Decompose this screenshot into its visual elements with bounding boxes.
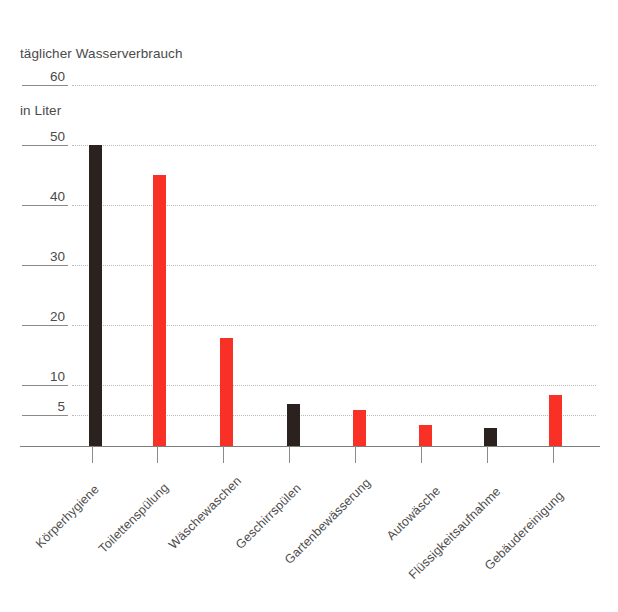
x-tick-5	[355, 446, 356, 463]
gridline-5	[72, 415, 596, 416]
y-tick-30: 30	[22, 249, 68, 266]
y-tick-rule-40	[22, 205, 68, 206]
y-tick-rule-60	[22, 85, 68, 86]
x-tick-4	[289, 446, 290, 463]
y-tick-50: 50	[22, 129, 68, 146]
gridline-20	[72, 325, 596, 326]
x-axis-label-autowaesche: Autowäsche	[384, 484, 443, 543]
y-tick-rule-20	[22, 325, 68, 326]
y-tick-60: 60	[22, 69, 68, 86]
x-axis-label-geschirrspuelen: Geschirrspülen	[233, 481, 304, 552]
x-tick-1	[92, 446, 93, 463]
x-tick-8	[553, 446, 554, 463]
gridline-10	[72, 385, 596, 386]
y-tick-rule-30	[22, 265, 68, 266]
x-tick-6	[421, 446, 422, 463]
y-tick-rule-50	[22, 145, 68, 146]
bar-toilettenspuelung	[153, 175, 166, 446]
bar-gebaeudereinigung	[549, 395, 562, 446]
y-tick-label-30: 30	[22, 249, 68, 264]
bar-autowaesche	[419, 425, 432, 446]
bar-waeschewaschen	[220, 338, 233, 446]
bar-fluessigkeitsaufnahme	[484, 428, 497, 446]
bar-koerperhygiene	[89, 145, 102, 446]
water-consumption-bar-chart: täglicher Wasserverbrauch in Liter 60 50…	[0, 0, 618, 612]
y-tick-rule-5	[22, 415, 68, 416]
x-tick-2	[157, 446, 158, 463]
gridline-60	[72, 85, 596, 86]
gridline-30	[72, 265, 596, 266]
x-axis-label-waeschewaschen: Wäschewaschen	[166, 474, 244, 552]
y-tick-10: 10	[22, 369, 68, 386]
y-tick-rule-10	[22, 385, 68, 386]
y-tick-label-20: 20	[22, 309, 68, 324]
x-axis-label-toilettenspuelung: Toilettenspülung	[96, 480, 171, 555]
x-axis-label-koerperhygiene: Körperhygiene	[33, 482, 102, 551]
y-tick-label-10: 10	[22, 369, 68, 384]
gridline-50	[72, 145, 596, 146]
y-tick-label-50: 50	[22, 129, 68, 144]
y-tick-label-40: 40	[22, 189, 68, 204]
x-tick-3	[223, 446, 224, 463]
plot-area: 60 50 40 30 20 10 5	[0, 0, 618, 612]
bar-geschirrspuelen	[287, 404, 300, 446]
y-tick-20: 20	[22, 309, 68, 326]
y-tick-5: 5	[22, 399, 68, 416]
bar-gartenbewaesserung	[353, 410, 366, 446]
x-tick-7	[487, 446, 488, 463]
x-axis-baseline	[20, 446, 600, 447]
gridline-40	[72, 205, 596, 206]
y-tick-label-60: 60	[22, 69, 68, 84]
y-tick-label-5: 5	[22, 399, 68, 414]
y-tick-40: 40	[22, 189, 68, 206]
